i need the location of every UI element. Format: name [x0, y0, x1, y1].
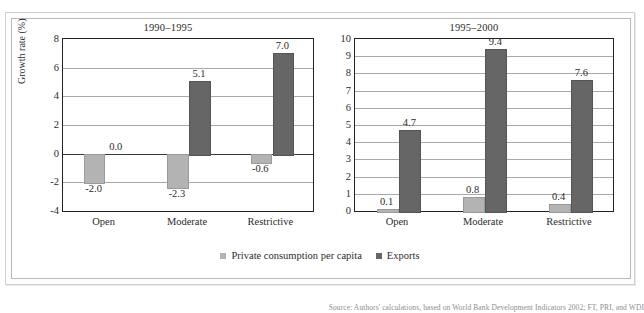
x-axis-category-label: Moderate: [440, 216, 526, 227]
y-axis-tick: 3: [346, 154, 355, 165]
cropped-heading-text: [0, 0, 644, 4]
chart-panel-1990-1995: 1990–1995 Growth rate (%) -4-202468-2.00…: [18, 22, 318, 237]
x-axis-category-label: Restrictive: [526, 216, 612, 227]
figure-source-caption: Source: Authors' calculations, based on …: [200, 303, 644, 312]
bar-private-consumption: [377, 209, 399, 213]
legend-swatch-icon: [376, 253, 382, 259]
bar-value-label: -2.0: [73, 184, 115, 195]
y-axis-tick: 2: [346, 171, 355, 182]
legend-label: Exports: [387, 250, 420, 261]
y-axis-tick: 0: [54, 148, 63, 159]
bar-exports: [485, 49, 507, 213]
bar-value-label: 7.6: [560, 68, 602, 79]
y-axis-tick: 4: [346, 137, 355, 148]
chart-legend: Private consumption per capitaExports: [11, 250, 629, 261]
panel-title: 1995–2000: [326, 22, 622, 33]
bar-exports: [571, 80, 593, 213]
bar-value-label: 9.4: [474, 37, 516, 48]
y-axis-tick: 10: [341, 34, 356, 45]
legend-item-exports: Exports: [376, 250, 420, 261]
chart-panel-1995-2000: 1995–2000 0123456789100.14.70.89.40.47.6…: [326, 22, 622, 237]
y-axis-tick: 0: [346, 206, 355, 217]
y-axis-tick: 6: [54, 62, 63, 73]
bar-value-label: 0.0: [95, 142, 137, 153]
bar-value-label: 7.0: [262, 41, 304, 52]
x-axis-category-label: Open: [354, 216, 440, 227]
bar-private-consumption: [167, 154, 189, 189]
y-axis-tick: 5: [346, 120, 355, 131]
bar-private-consumption: [84, 154, 106, 185]
panel-title: 1990–1995: [18, 22, 318, 33]
y-axis-tick: 9: [346, 51, 355, 62]
bar-value-label: -0.6: [240, 164, 282, 175]
bar-exports: [189, 81, 211, 156]
x-axis-category-label: Open: [62, 216, 145, 227]
y-axis-tick: 7: [346, 85, 355, 96]
x-axis-category-label: Moderate: [145, 216, 228, 227]
y-axis-tick: -2: [50, 177, 63, 188]
bar-value-label: 5.1: [178, 69, 220, 80]
bar-exports: [273, 53, 295, 155]
y-axis-tick: 8: [54, 34, 63, 45]
bar-private-consumption: [463, 197, 485, 213]
y-axis-tick: 2: [54, 120, 63, 131]
y-axis-tick: 8: [346, 68, 355, 79]
bar-private-consumption: [549, 204, 571, 213]
bar-value-label: -2.3: [156, 189, 198, 200]
y-axis-tick: 1: [346, 189, 355, 200]
gridline: [355, 56, 613, 57]
y-axis-tick: 4: [54, 91, 63, 102]
bar-value-label: 4.7: [388, 118, 430, 129]
y-axis-label: Growth rate (%): [16, 18, 27, 84]
legend-label: Private consumption per capita: [231, 250, 361, 261]
legend-swatch-icon: [220, 253, 226, 259]
plot-area: 0123456789100.14.70.89.40.47.6: [354, 38, 614, 212]
plot-area: -4-202468-2.00.0-2.35.1-0.67.0: [62, 38, 314, 212]
y-axis-tick: -4: [50, 206, 63, 217]
bar-exports: [399, 130, 421, 213]
legend-item-private-consumption: Private consumption per capita: [220, 250, 361, 261]
x-axis-category-label: Restrictive: [229, 216, 312, 227]
y-axis-tick: 6: [346, 103, 355, 114]
figure-container: 1990–1995 Growth rate (%) -4-202468-2.00…: [0, 0, 644, 313]
